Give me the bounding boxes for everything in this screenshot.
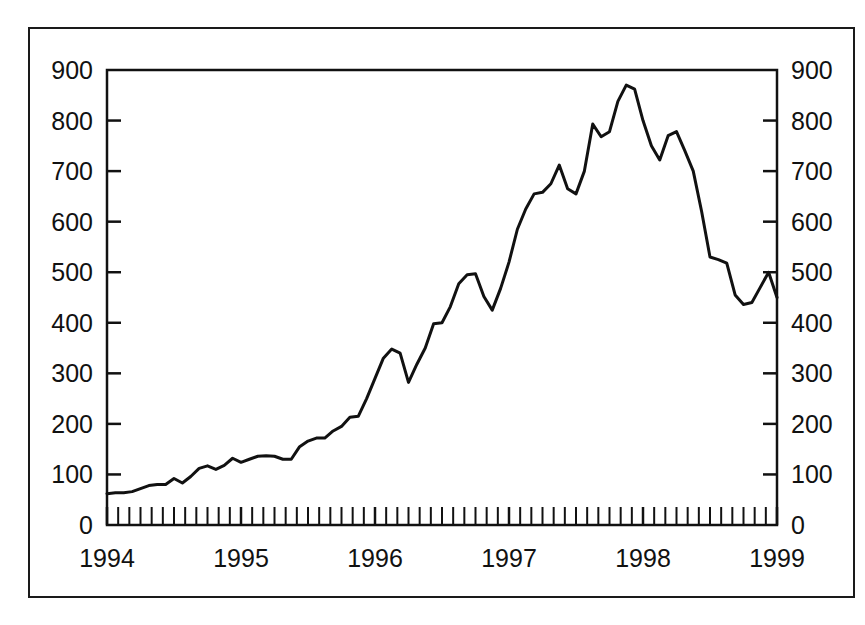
y-axis-label-left-300: 300 [51,359,93,387]
y-axis-label-left-100: 100 [51,460,93,488]
y-axis-labels-right: 0100200300400500600700800900 [791,56,833,539]
figure-outer-frame: 0100200300400500600700800900 01002003004… [28,27,855,598]
y-axis-label-left-700: 700 [51,157,93,185]
y-axis-label-right-300: 300 [791,359,833,387]
y-axis-label-left-600: 600 [51,208,93,236]
y-axis-label-right-700: 700 [791,157,833,185]
series-line-index [107,85,777,493]
y-axis-label-left-200: 200 [51,410,93,438]
y-axis-label-left-900: 900 [51,56,93,84]
line-chart: 0100200300400500600700800900 01002003004… [30,29,853,596]
x-axis-label-1997: 1997 [481,544,537,572]
y-axis-label-right-400: 400 [791,309,833,337]
y-axis-ticks-left [107,121,121,475]
x-axis-label-1998: 1998 [615,544,671,572]
x-axis-label-1994: 1994 [79,544,135,572]
data-series-group [107,85,777,493]
y-axis-label-right-800: 800 [791,107,833,135]
x-axis-minor-ticks [118,507,766,525]
plot-axes-frame [107,70,777,525]
y-axis-label-right-200: 200 [791,410,833,438]
y-axis-label-left-0: 0 [79,511,93,539]
y-axis-label-left-500: 500 [51,258,93,286]
chart-page: 0100200300400500600700800900 01002003004… [0,0,865,625]
x-axis-label-1995: 1995 [213,544,269,572]
y-axis-ticks-right [763,121,777,475]
x-axis-label-1999: 1999 [749,544,805,572]
y-axis-label-left-400: 400 [51,309,93,337]
x-axis-labels: 199419951996199719981999 [79,544,805,572]
y-axis-label-left-800: 800 [51,107,93,135]
y-axis-label-right-500: 500 [791,258,833,286]
plot-area-border [107,70,777,525]
y-axis-label-right-0: 0 [791,511,805,539]
y-axis-labels-left: 0100200300400500600700800900 [51,56,93,539]
y-axis-label-right-600: 600 [791,208,833,236]
y-axis-label-right-900: 900 [791,56,833,84]
y-axis-label-right-100: 100 [791,460,833,488]
x-axis-label-1996: 1996 [347,544,403,572]
